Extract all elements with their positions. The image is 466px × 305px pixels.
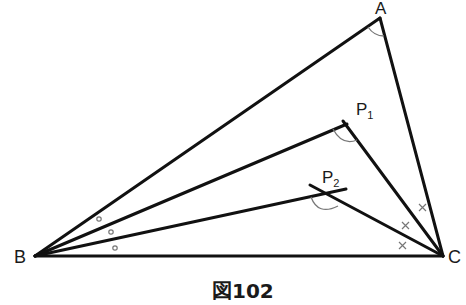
circle-mark-1 xyxy=(97,217,101,221)
point-label-P2-sub: 2 xyxy=(333,177,339,189)
circle-mark-2 xyxy=(109,230,113,234)
vertex-label-A: A xyxy=(375,0,387,18)
cross-mark-3 xyxy=(399,242,406,249)
figure-caption: 図102 xyxy=(212,279,274,303)
cross-mark-1 xyxy=(419,204,426,211)
circle-mark-3 xyxy=(113,246,117,250)
point-label-P2-main: P xyxy=(322,168,333,187)
vertex-label-C: C xyxy=(448,247,461,267)
triangle-diagram: A B C P1 P2 図102 xyxy=(0,0,466,305)
point-label-P1-main: P xyxy=(356,100,367,119)
segment-P1-C xyxy=(343,121,443,256)
segment-B-P1 xyxy=(35,124,347,256)
segment-P2-C xyxy=(310,185,443,256)
cross-mark-2 xyxy=(402,222,409,229)
point-label-P1-sub: 1 xyxy=(367,109,373,121)
side-AC xyxy=(380,18,443,256)
point-label-P2: P2 xyxy=(322,168,339,189)
point-label-P1: P1 xyxy=(356,100,373,121)
vertex-label-B: B xyxy=(14,247,26,267)
triangle-sides xyxy=(35,18,443,256)
interior-lines xyxy=(35,121,443,256)
